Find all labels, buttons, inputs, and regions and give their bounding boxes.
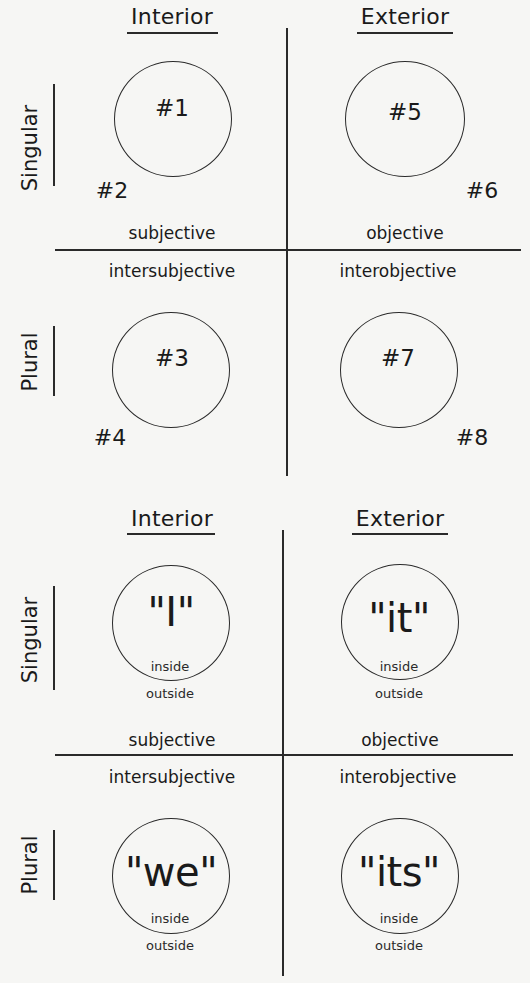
outside-label: outside — [375, 686, 423, 701]
label-interobjective: interobjective — [340, 261, 457, 281]
circle-label-its: "its" — [358, 849, 440, 895]
singular-rule — [53, 586, 55, 690]
circle-label-3: #3 — [155, 345, 189, 371]
plural-rule — [53, 830, 55, 900]
vertical-axis — [286, 28, 288, 476]
column-header-interior: Interior — [131, 4, 213, 29]
label-intersubjective: intersubjective — [109, 261, 235, 281]
row-header-singular: Singular — [18, 105, 42, 191]
outside-label: outside — [146, 938, 194, 953]
circle-label-we: "we" — [125, 849, 217, 895]
column-header-interior: Interior — [131, 506, 213, 531]
label-subjective: subjective — [129, 223, 216, 243]
inside-label: inside — [380, 911, 419, 926]
row-header-singular: Singular — [18, 597, 42, 683]
outside-label: outside — [146, 686, 194, 701]
label-intersubjective: intersubjective — [109, 767, 235, 787]
label-interobjective: interobjective — [340, 767, 457, 787]
inside-label: inside — [151, 659, 190, 674]
column-header-exterior: Exterior — [356, 506, 444, 531]
quadrant-diagram-numbered: Interior Exterior Singular Plural subjec… — [0, 0, 530, 490]
label-objective: objective — [361, 730, 439, 750]
interior-underline — [127, 533, 215, 535]
inside-label: inside — [380, 659, 419, 674]
row-header-plural: Plural — [18, 332, 42, 391]
circle-label-5: #5 — [388, 99, 422, 125]
outer-label-6: #6 — [466, 178, 498, 203]
inside-label: inside — [151, 911, 190, 926]
outside-label: outside — [375, 938, 423, 953]
outer-label-4: #4 — [94, 425, 126, 450]
exterior-underline — [352, 533, 448, 535]
circle-label-i: "I" — [147, 589, 194, 635]
outer-label-8: #8 — [456, 425, 488, 450]
quadrant-diagram-pronouns: Interior Exterior Singular Plural subjec… — [0, 490, 530, 983]
row-header-plural: Plural — [18, 835, 42, 894]
singular-rule — [53, 84, 55, 186]
exterior-underline — [357, 32, 453, 34]
column-header-exterior: Exterior — [361, 4, 449, 29]
vertical-axis — [282, 530, 284, 976]
interior-underline — [127, 32, 218, 34]
circle-label-7: #7 — [381, 345, 415, 371]
label-objective: objective — [366, 223, 444, 243]
circle-label-1: #1 — [155, 95, 189, 121]
outer-label-2: #2 — [96, 178, 128, 203]
horizontal-axis — [55, 754, 513, 756]
circle-label-it: "it" — [368, 595, 430, 641]
plural-rule — [53, 326, 55, 396]
horizontal-axis — [55, 249, 521, 251]
label-subjective: subjective — [129, 730, 216, 750]
